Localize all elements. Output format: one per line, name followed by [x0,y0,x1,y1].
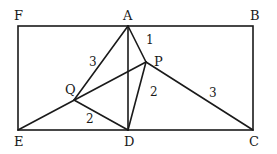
length-label-AP: 1 [146,33,154,47]
length-label-PD: 2 [150,85,158,99]
length-label-PC: 3 [209,86,217,100]
segment-EP [18,62,146,130]
length-label-QD: 2 [86,112,94,126]
segment-QD [74,100,128,130]
point-label-E: E [14,134,24,149]
point-label-B: B [250,8,260,23]
point-label-P: P [154,54,163,69]
segment-AQ [74,26,128,100]
segment-AP [128,26,146,62]
point-label-A: A [122,8,133,23]
segment-PC [146,62,253,130]
point-label-F: F [14,8,23,23]
geometry-diagram: F A B E D C P Q 3 1 2 3 2 [0,0,277,154]
length-label-AQ: 3 [89,55,97,69]
point-label-Q: Q [65,82,76,97]
point-label-C: C [249,134,259,149]
point-label-D: D [124,134,134,149]
segment-PD [128,62,146,130]
